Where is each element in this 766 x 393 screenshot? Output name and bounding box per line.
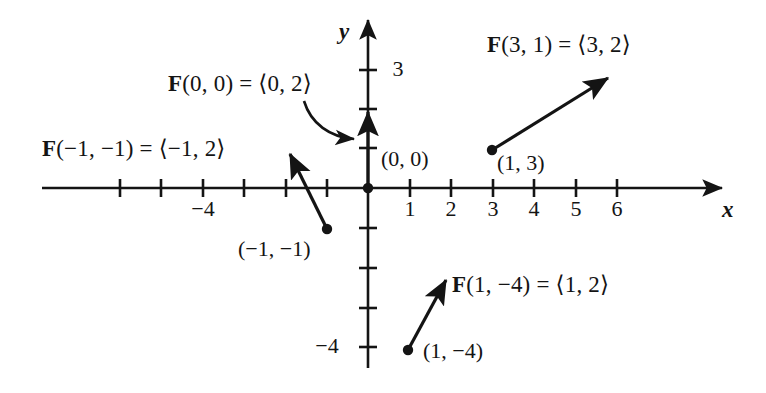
x-tick-label-2: 2 xyxy=(439,198,463,220)
y-tick-label-neg4: −4 xyxy=(300,335,354,357)
vector-label-f-neg1-neg1-symbol: F xyxy=(42,136,56,161)
x-tick-label-3: 3 xyxy=(481,198,505,220)
vector-label-f-1-neg4-symbol: F xyxy=(452,272,466,297)
x-axis-label: x xyxy=(722,198,734,221)
point-label-f-3-1: (1, 3) xyxy=(497,152,545,174)
vector-label-f-1-neg4-rest: (1, −4) = ⟨1, 2⟩ xyxy=(466,272,609,297)
vector-label-f-0-0: F(0, 0) = ⟨0, 2⟩ xyxy=(168,72,312,95)
vector-label-f-3-1: F(3, 1) = ⟨3, 2⟩ xyxy=(487,33,631,56)
origin-point-label: (0, 0) xyxy=(381,148,429,170)
vector-f-3-1 xyxy=(487,78,608,155)
y-axis xyxy=(359,20,377,368)
vector-label-f-neg1-neg1: F(−1, −1) = ⟨−1, 2⟩ xyxy=(42,137,226,160)
x-tick-label-6: 6 xyxy=(605,198,629,220)
x-tick-label-5: 5 xyxy=(564,198,588,220)
x-tick-label-1: 1 xyxy=(398,198,422,220)
vector-label-f-0-0-rest: (0, 0) = ⟨0, 2⟩ xyxy=(182,71,312,96)
leader-arrow-f-0-0 xyxy=(304,101,354,139)
x-tick-label-4: 4 xyxy=(522,198,546,220)
y-axis-label: y xyxy=(339,20,349,43)
vector-label-f-3-1-rest: (3, 1) = ⟨3, 2⟩ xyxy=(501,32,631,57)
vector-field-canvas xyxy=(0,0,766,393)
vector-field-figure: y x −4 1 2 3 4 5 6 3 −4 (0, 0) F(0, 0) =… xyxy=(0,0,766,393)
y-tick-label-3: 3 xyxy=(386,58,410,80)
vector-label-f-1-neg4: F(1, −4) = ⟨1, 2⟩ xyxy=(452,273,609,296)
x-axis xyxy=(42,179,722,197)
vector-label-f-3-1-symbol: F xyxy=(487,32,501,57)
point-label-f-neg1-neg1: (−1, −1) xyxy=(238,238,310,260)
point-label-f-1-neg4: (1, −4) xyxy=(423,340,483,362)
vector-label-f-0-0-symbol: F xyxy=(168,71,182,96)
vector-label-f-neg1-neg1-rest: (−1, −1) = ⟨−1, 2⟩ xyxy=(56,136,225,161)
x-tick-label-neg4: −4 xyxy=(176,198,230,220)
